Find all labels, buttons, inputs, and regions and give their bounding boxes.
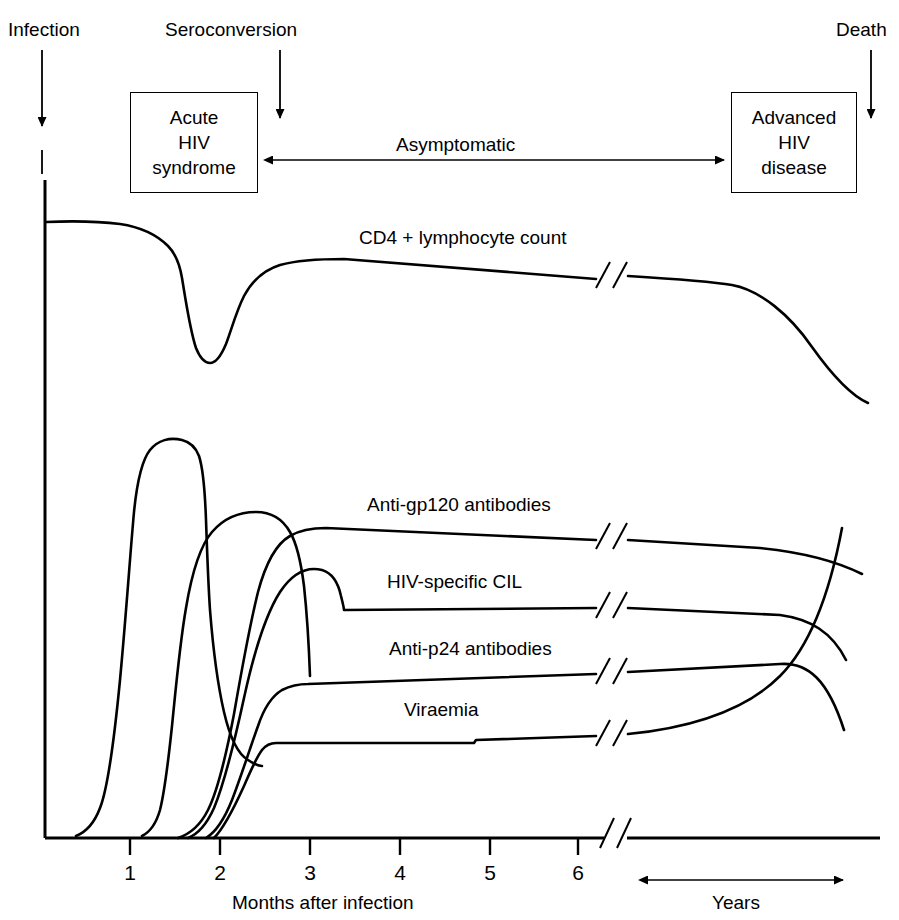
gp120-axis-break-icon bbox=[596, 523, 627, 549]
x-tick-label-1: 1 bbox=[110, 862, 150, 883]
acute-box-line-1: Acute bbox=[170, 105, 219, 130]
advanced-box-line-3: disease bbox=[761, 155, 827, 180]
x-tick-label-6: 6 bbox=[558, 862, 598, 883]
death-label: Death bbox=[836, 20, 887, 39]
curve-label-anti-p24: Anti-p24 antibodies bbox=[389, 639, 552, 658]
x-axis-ticks bbox=[130, 838, 578, 855]
acute-box-line-2: HIV bbox=[178, 130, 210, 155]
p24-axis-break-icon bbox=[596, 658, 627, 684]
curve-acute-viraemia-peak bbox=[76, 439, 262, 836]
acute-hiv-syndrome-box: Acute HIV syndrome bbox=[130, 92, 258, 193]
curve-p24-antigen-peak bbox=[142, 512, 310, 836]
x-tick-label-4: 4 bbox=[380, 862, 420, 883]
cil-axis-break-icon bbox=[596, 592, 627, 618]
hiv-timecourse-figure: Infection Seroconversion Death Asymptoma… bbox=[0, 0, 899, 920]
curve-anti-p24-antibodies bbox=[206, 658, 844, 838]
x-axis-title-years: Years bbox=[712, 893, 760, 912]
viraemia-axis-break-icon bbox=[596, 720, 627, 746]
seroconversion-label: Seroconversion bbox=[165, 20, 297, 39]
x-tick-label-5: 5 bbox=[470, 862, 510, 883]
curve-label-anti-gp120: Anti-gp120 antibodies bbox=[367, 495, 551, 514]
x-axis-break-icon bbox=[600, 818, 631, 848]
x-axis-title-months: Months after infection bbox=[232, 893, 414, 912]
acute-box-line-3: syndrome bbox=[152, 155, 235, 180]
curve-label-viraemia: Viraemia bbox=[404, 700, 479, 719]
curve-cd4-lymphocyte-count bbox=[46, 221, 868, 403]
curve-label-hiv-specific-cil: HIV-specific CIL bbox=[387, 572, 522, 591]
infection-label: Infection bbox=[8, 20, 80, 39]
x-tick-label-3: 3 bbox=[290, 862, 330, 883]
advanced-box-line-2: HIV bbox=[778, 130, 810, 155]
curve-label-cd4: CD4 + lymphocyte count bbox=[359, 228, 567, 247]
asymptomatic-label: Asymptomatic bbox=[396, 135, 515, 154]
advanced-box-line-1: Advanced bbox=[752, 105, 837, 130]
x-tick-label-2: 2 bbox=[200, 862, 240, 883]
curve-hiv-specific-cil bbox=[188, 569, 846, 838]
cd4-axis-break-icon bbox=[596, 262, 627, 288]
advanced-hiv-disease-box: Advanced HIV disease bbox=[731, 92, 857, 193]
